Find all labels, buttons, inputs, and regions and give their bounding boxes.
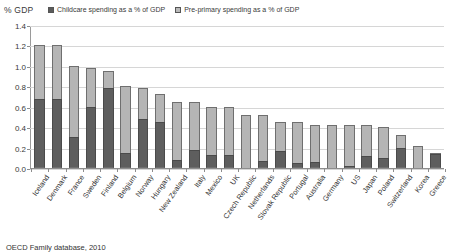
bar-segment-childcare[interactable]: [189, 150, 199, 168]
bar-segment-childcare[interactable]: [258, 161, 268, 168]
bar-slot[interactable]: [358, 26, 375, 168]
bar-segment-pre-primary[interactable]: [344, 125, 354, 166]
y-axis-tick-mark: [27, 46, 30, 47]
bar-segment-childcare[interactable]: [206, 155, 216, 168]
bar-segment-childcare[interactable]: [138, 119, 148, 168]
bar-stack[interactable]: [172, 102, 182, 168]
bar-segment-pre-primary[interactable]: [155, 94, 165, 122]
bar-stack[interactable]: [34, 45, 44, 168]
bar-segment-childcare[interactable]: [378, 158, 388, 168]
bar-segment-pre-primary[interactable]: [275, 122, 285, 151]
bar-slot[interactable]: [48, 26, 65, 168]
bar-stack[interactable]: [310, 125, 320, 168]
bar-segment-pre-primary[interactable]: [172, 102, 182, 160]
bar-segment-childcare[interactable]: [361, 156, 371, 168]
bar-segment-childcare[interactable]: [103, 88, 113, 168]
bar-segment-childcare[interactable]: [52, 99, 62, 168]
bar-slot[interactable]: [83, 26, 100, 168]
bar-segment-pre-primary[interactable]: [327, 125, 337, 168]
bar-slot[interactable]: [289, 26, 306, 168]
bar-slot[interactable]: [31, 26, 48, 168]
x-axis-tick-mark: [273, 169, 274, 172]
bar-stack[interactable]: [120, 86, 130, 168]
bar-segment-pre-primary[interactable]: [378, 127, 388, 158]
x-axis-tick-mark: [342, 169, 343, 172]
bar-stack[interactable]: [103, 71, 113, 168]
bar-stack[interactable]: [378, 127, 388, 168]
bar-segment-pre-primary[interactable]: [258, 115, 268, 161]
bar-slot[interactable]: [306, 26, 323, 168]
bar-stack[interactable]: [224, 107, 234, 168]
bar-slot[interactable]: [117, 26, 134, 168]
bar-segment-pre-primary[interactable]: [224, 107, 234, 155]
bar-stack[interactable]: [69, 66, 79, 168]
x-axis-tick-label: UK: [228, 173, 241, 187]
bar-slot[interactable]: [134, 26, 151, 168]
bar-slot[interactable]: [427, 26, 444, 168]
bar-segment-childcare[interactable]: [155, 122, 165, 168]
bar-stack[interactable]: [396, 135, 406, 168]
bar-segment-childcare[interactable]: [86, 107, 96, 168]
x-axis-tick-mark: [238, 169, 239, 172]
bar-slot[interactable]: [272, 26, 289, 168]
bar-slot[interactable]: [65, 26, 82, 168]
bar-stack[interactable]: [138, 88, 148, 168]
bar-segment-pre-primary[interactable]: [86, 68, 96, 107]
bar-segment-childcare[interactable]: [292, 163, 302, 168]
bar-segment-childcare[interactable]: [310, 162, 320, 168]
bar-stack[interactable]: [206, 107, 216, 168]
bar-stack[interactable]: [86, 68, 96, 168]
bar-segment-pre-primary[interactable]: [292, 122, 302, 163]
bar-segment-pre-primary[interactable]: [206, 107, 216, 155]
bar-stack[interactable]: [292, 122, 302, 168]
bar-segment-pre-primary[interactable]: [103, 71, 113, 88]
bar-slot[interactable]: [169, 26, 186, 168]
bar-stack[interactable]: [258, 115, 268, 168]
bar-slot[interactable]: [100, 26, 117, 168]
bar-stack[interactable]: [275, 122, 285, 168]
bar-segment-pre-primary[interactable]: [52, 45, 62, 98]
bar-slot[interactable]: [409, 26, 426, 168]
bar-segment-childcare[interactable]: [430, 154, 440, 168]
bar-segment-pre-primary[interactable]: [69, 66, 79, 138]
bar-stack[interactable]: [344, 125, 354, 168]
bar-slot[interactable]: [220, 26, 237, 168]
bar-segment-pre-primary[interactable]: [138, 88, 148, 119]
bar-stack[interactable]: [189, 102, 199, 168]
bar-segment-childcare[interactable]: [120, 153, 130, 168]
bar-segment-childcare[interactable]: [344, 166, 354, 168]
bar-slot[interactable]: [237, 26, 254, 168]
plot-area: 0.00.20.40.60.81.01.21.4: [30, 26, 444, 169]
bar-segment-pre-primary[interactable]: [241, 115, 251, 168]
bar-segment-pre-primary[interactable]: [361, 125, 371, 156]
bar-segment-childcare[interactable]: [34, 99, 44, 168]
bar-segment-childcare[interactable]: [275, 151, 285, 168]
bar-segment-pre-primary[interactable]: [189, 102, 199, 150]
bar-slot[interactable]: [151, 26, 168, 168]
bar-segment-pre-primary[interactable]: [310, 125, 320, 162]
bar-slot[interactable]: [392, 26, 409, 168]
x-axis-tick-mark: [290, 169, 291, 172]
bar-stack[interactable]: [413, 146, 423, 168]
bar-slot[interactable]: [341, 26, 358, 168]
bar-stack[interactable]: [155, 94, 165, 168]
bar-slot[interactable]: [186, 26, 203, 168]
bar-segment-pre-primary[interactable]: [34, 45, 44, 98]
bar-stack[interactable]: [241, 115, 251, 168]
bar-stack[interactable]: [327, 125, 337, 168]
bar-slot[interactable]: [323, 26, 340, 168]
bar-segment-childcare[interactable]: [224, 155, 234, 168]
bar-slot[interactable]: [203, 26, 220, 168]
bar-segment-childcare[interactable]: [172, 160, 182, 168]
bar-segment-pre-primary[interactable]: [120, 86, 130, 152]
bar-stack[interactable]: [361, 125, 371, 168]
x-axis-tick-mark: [359, 169, 360, 172]
bar-segment-pre-primary[interactable]: [413, 146, 423, 168]
bar-stack[interactable]: [52, 45, 62, 168]
bar-segment-childcare[interactable]: [396, 148, 406, 168]
bar-stack[interactable]: [430, 153, 440, 168]
bar-segment-childcare[interactable]: [69, 137, 79, 168]
bar-slot[interactable]: [255, 26, 272, 168]
bar-slot[interactable]: [375, 26, 392, 168]
bar-segment-pre-primary[interactable]: [396, 135, 406, 147]
